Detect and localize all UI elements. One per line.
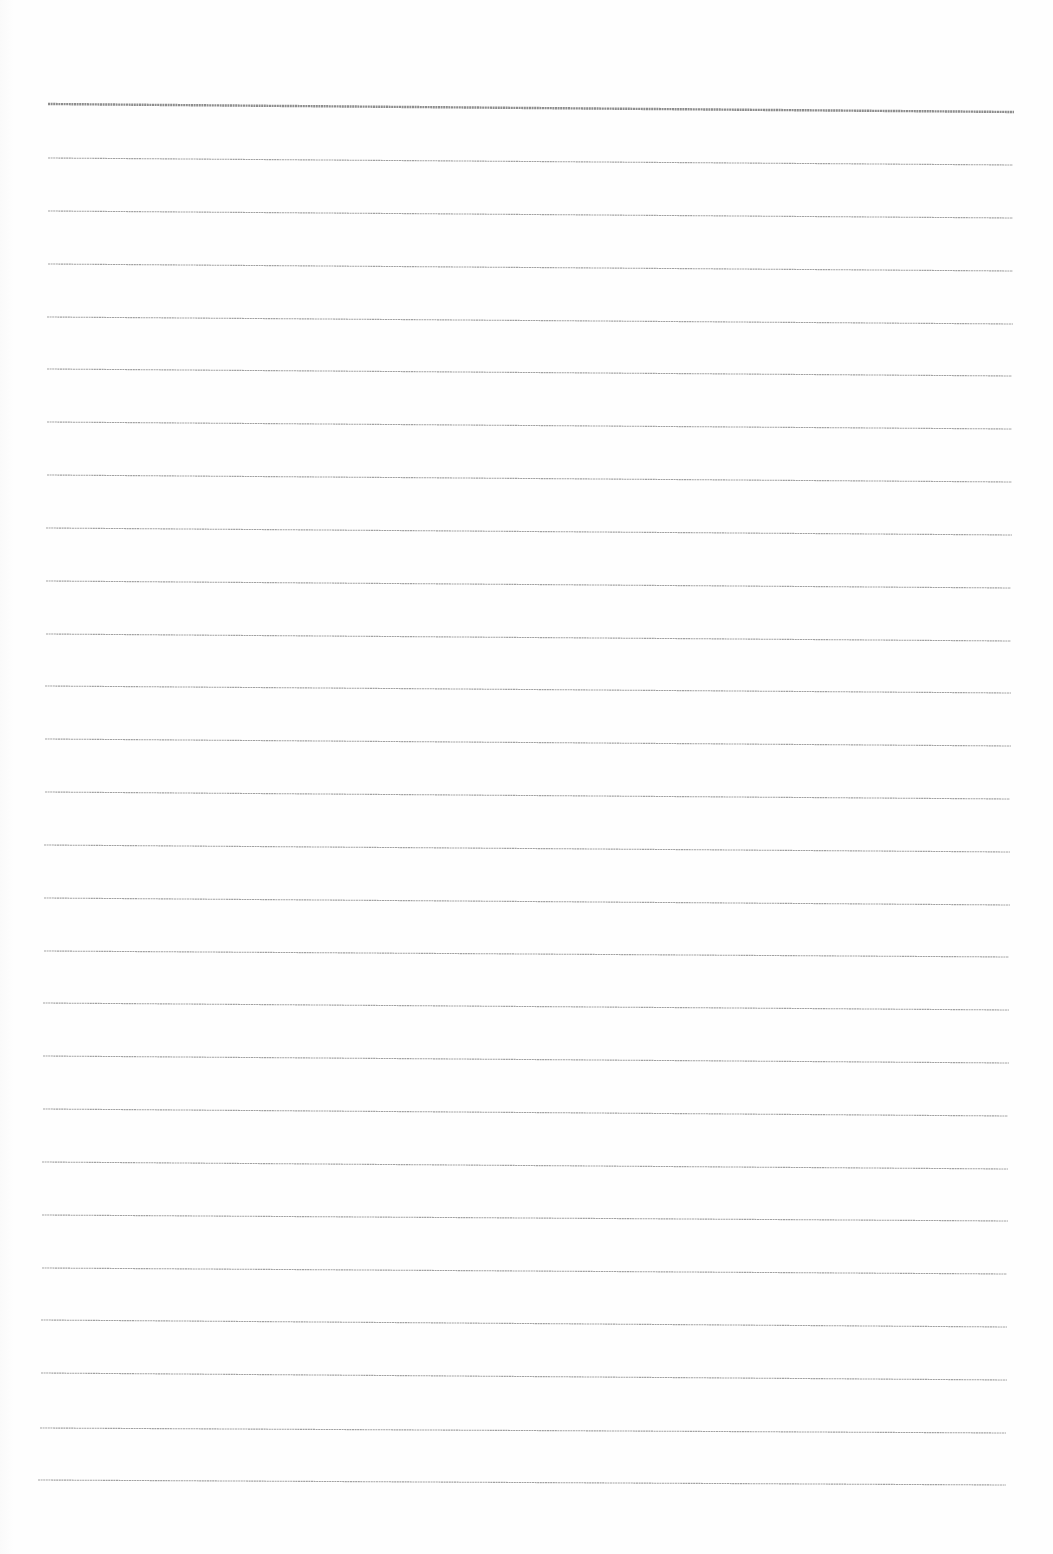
header-rule [48,104,1014,112]
ruled-line [42,1215,1008,1221]
ruled-paper-page [0,0,1053,1554]
ruled-line [46,634,1011,641]
ruled-line [42,1162,1008,1169]
ruled-line [46,528,1012,535]
ruled-line [48,264,1013,271]
ruled-line [40,1428,1006,1433]
ruled-line [46,581,1011,588]
ruled-line [44,845,1010,852]
ruled-line [42,1268,1007,1274]
ruled-line [43,1003,1009,1010]
ruled-line [43,1056,1009,1063]
ruled-line [41,1320,1007,1327]
ruled-line [47,369,1012,376]
ruled-line [47,475,1012,482]
ruled-line [38,1480,1006,1485]
ruled-line [47,422,1012,429]
ruled-line [45,739,1011,746]
ruled-line [48,211,1013,218]
ruled-line [41,1373,1007,1380]
ruled-line [43,1109,1008,1116]
ruled-line [48,158,1013,165]
ruled-lines [0,0,1053,1554]
ruled-line [44,951,1009,957]
ruled-line [45,686,1011,693]
ruled-line [45,792,1010,799]
ruled-line [47,317,1013,324]
ruled-line [44,898,1010,905]
